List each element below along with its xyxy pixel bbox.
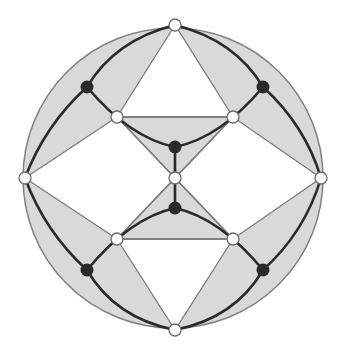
- black-node: [81, 81, 94, 94]
- black-node: [169, 141, 182, 154]
- black-node: [81, 264, 94, 277]
- black-node: [257, 264, 270, 277]
- white-node: [227, 233, 239, 245]
- graph-diagram: [0, 0, 346, 354]
- white-node: [169, 172, 181, 184]
- white-node: [111, 111, 123, 123]
- white-node: [111, 233, 123, 245]
- black-node: [169, 202, 182, 215]
- white-node: [169, 19, 181, 31]
- black-node: [257, 81, 270, 94]
- white-node: [315, 172, 327, 184]
- white-node: [227, 111, 239, 123]
- white-node: [169, 324, 181, 336]
- white-node: [19, 172, 31, 184]
